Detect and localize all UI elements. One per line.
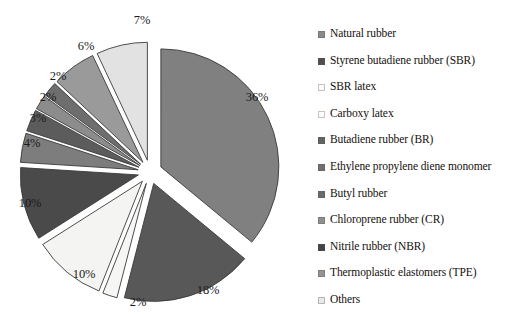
legend-color-swatch-icon xyxy=(318,164,325,171)
legend-item[interactable]: Butyl rubber xyxy=(318,187,513,214)
legend-item-label: Nitrile rubber (NBR) xyxy=(330,240,425,253)
chart-legend: Natural rubberStyrene butadiene rubber (… xyxy=(318,27,513,320)
legend-item[interactable]: SBR latex xyxy=(318,80,513,107)
legend-color-swatch-icon xyxy=(318,31,325,38)
pie-slice-value-label: 2% xyxy=(50,69,66,84)
legend-item[interactable]: Others xyxy=(318,293,513,320)
pie-slice-value-label: 18% xyxy=(197,283,219,298)
pie-chart-figure: 36%18%2%10%10%4%3%2%2%6%7% Natural rubbe… xyxy=(0,0,513,322)
legend-item[interactable]: Nitrile rubber (NBR) xyxy=(318,240,513,267)
legend-item-label: Butadiene rubber (BR) xyxy=(330,133,433,146)
legend-color-swatch-icon xyxy=(318,217,325,224)
pie-slices-svg xyxy=(0,0,300,322)
pie-slice-value-label: 2% xyxy=(130,295,146,310)
legend-item-label: SBR latex xyxy=(330,80,376,93)
legend-color-swatch-icon xyxy=(318,111,325,118)
pie-slice-value-label: 10% xyxy=(73,267,95,282)
legend-item[interactable]: Carboxy latex xyxy=(318,107,513,134)
pie-slice-value-label: 4% xyxy=(24,136,40,151)
legend-item-label: Thermoplastic elastomers (TPE) xyxy=(330,266,476,279)
legend-item-label: Carboxy latex xyxy=(330,107,394,120)
legend-color-swatch-icon xyxy=(318,137,325,144)
pie-chart-plot: 36%18%2%10%10%4%3%2%2%6%7% xyxy=(0,0,300,322)
legend-color-swatch-icon xyxy=(318,244,325,251)
legend-item[interactable]: Natural rubber xyxy=(318,27,513,54)
legend-color-swatch-icon xyxy=(318,84,325,91)
pie-slice-value-label: 7% xyxy=(134,13,150,28)
pie-slice-value-label: 36% xyxy=(246,90,268,105)
legend-item-label: Chloroprene rubber (CR) xyxy=(330,213,444,226)
legend-color-swatch-icon xyxy=(318,270,325,277)
legend-item-label: Butyl rubber xyxy=(330,187,387,200)
legend-color-swatch-icon xyxy=(318,297,325,304)
legend-item-label: Ethylene propylene diene monomer xyxy=(330,160,491,173)
legend-item-label: Natural rubber xyxy=(330,27,396,40)
legend-item-label: Others xyxy=(330,293,360,306)
pie-slice-value-label: 2% xyxy=(40,90,56,105)
legend-item[interactable]: Butadiene rubber (BR) xyxy=(318,133,513,160)
pie-slice-value-label: 10% xyxy=(19,196,41,211)
legend-item[interactable]: Chloroprene rubber (CR) xyxy=(318,213,513,240)
legend-item[interactable]: Thermoplastic elastomers (TPE) xyxy=(318,266,513,293)
legend-color-swatch-icon xyxy=(318,191,325,198)
legend-item[interactable]: Styrene butadiene rubber (SBR) xyxy=(318,54,513,81)
legend-item-label: Styrene butadiene rubber (SBR) xyxy=(330,54,475,67)
legend-item[interactable]: Ethylene propylene diene monomer xyxy=(318,160,513,187)
legend-color-swatch-icon xyxy=(318,58,325,65)
pie-slice-value-label: 3% xyxy=(30,111,46,126)
pie-slice-value-label: 6% xyxy=(78,39,94,54)
